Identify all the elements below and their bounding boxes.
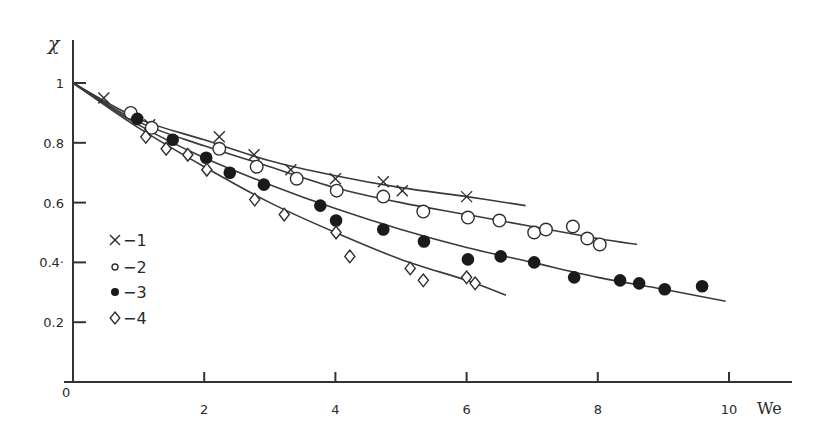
filled-circle-marker [377,223,390,236]
open-circle-marker [377,190,390,203]
open-diamond-marker [470,277,480,290]
legend-label: −3 [123,283,147,302]
open-diamond-marker [418,274,428,287]
series-2 [124,107,606,251]
filled-circle-marker [200,151,213,164]
legend: −1−2−3−4 [110,231,147,328]
open-diamond-marker [279,208,289,221]
open-diamond-marker [331,226,341,239]
series-1 [98,92,472,202]
filled-circle-marker [568,271,581,284]
chart-canvas: 0.20.4·0.60.81 246810 χ We 0 −1−2−3−4 [0,0,825,434]
open-circle-marker [417,205,430,218]
x-tick-label: 10 [721,402,738,417]
legend-item-4: −4 [110,309,146,328]
x-tick-label: 6 [462,402,470,417]
open-circle-marker [112,264,118,270]
filled-circle-marker [223,166,236,179]
legend-label: −4 [123,309,147,328]
filled-circle-marker [418,235,431,248]
filled-circle-marker [462,253,475,266]
open-diamond-marker [110,312,120,324]
open-circle-marker [462,211,475,224]
legend-label: −1 [123,231,147,250]
y-ticks: 0.20.4·0.60.81 [39,76,86,330]
legend-label: −2 [123,258,147,277]
legend-item-1: −1 [110,231,147,250]
open-circle-marker [290,172,303,185]
origin-label: 0 [62,385,70,400]
x-axis-title: We [757,399,782,418]
x-tick-label: 8 [594,402,602,417]
fit-curve-3 [73,83,726,301]
filled-circle-marker [658,283,671,296]
legend-item-2: −2 [112,258,147,277]
x-ticks: 246810 [200,372,737,417]
filled-circle-marker [131,113,144,126]
open-circle-marker [493,214,506,227]
open-diamond-marker [250,193,260,206]
legend-item-3: −3 [111,283,147,302]
y-tick-label: 1 [56,76,64,91]
x-tick-label: 4 [331,402,339,417]
y-axis-title: χ [46,32,61,54]
open-circle-marker [581,232,594,245]
cross-marker [110,235,120,245]
open-circle-marker [567,220,580,233]
open-circle-marker [528,226,541,239]
y-tick-label: 0.2 [43,315,64,330]
filled-circle-marker [614,274,627,287]
open-circle-marker [330,184,343,197]
filled-circle-marker [696,280,709,293]
filled-circle-marker [258,178,271,191]
filled-circle-marker [330,214,343,227]
filled-circle-marker [528,256,541,269]
fit-curves [73,83,726,301]
open-circle-marker [250,160,263,173]
data-markers [98,92,708,295]
open-diamond-marker [345,250,355,263]
cross-marker [214,131,225,142]
cross-marker [397,185,408,196]
open-circle-marker [213,142,226,155]
cross-marker [330,173,341,184]
y-tick-label: 0.6 [43,196,64,211]
y-tick-label: 0.4· [39,255,64,270]
filled-circle-marker [314,199,327,212]
x-tick-label: 2 [200,402,208,417]
filled-circle-marker [111,288,119,296]
filled-circle-marker [633,277,646,290]
filled-circle-marker [494,250,507,263]
y-tick-label: 0.8 [43,136,64,151]
fit-curve-2 [73,83,637,244]
fit-curve-1 [73,83,526,206]
open-circle-marker [593,238,606,251]
series-3 [131,113,708,296]
open-circle-marker [540,223,553,236]
